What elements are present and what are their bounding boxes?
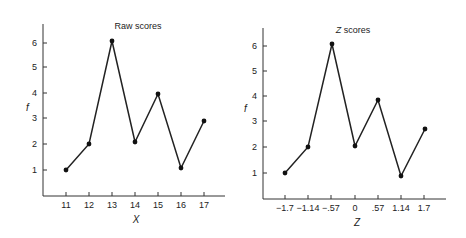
- y-tick-label: 6: [252, 41, 257, 51]
- y-tick-label: 5: [32, 62, 37, 72]
- x-tick-label: 14: [130, 200, 140, 210]
- x-tick-label: 16: [176, 200, 186, 210]
- y-ticks: 1 2 3 4 5 6: [32, 38, 47, 175]
- axes: [43, 24, 225, 196]
- frequency-polygon: [66, 41, 204, 170]
- x-tick-label: −1.14: [297, 203, 320, 213]
- x-axis-label: X: [132, 214, 140, 225]
- y-tick-label: 1: [252, 168, 257, 178]
- y-axis-label: f: [244, 103, 248, 114]
- x-ticks: −1.7 −1.14 −.57 0 .57 1.14 1.7: [276, 195, 430, 213]
- x-tick-label: .57: [372, 203, 385, 213]
- y-tick-label: 3: [252, 116, 257, 126]
- x-tick-label: 11: [61, 200, 70, 210]
- chart-title: Z scores: [335, 25, 371, 35]
- y-ticks: 1 2 3 4 5 6: [252, 41, 267, 178]
- y-tick-label: 4: [252, 91, 257, 101]
- figure: Raw scores 1 2 3 4 5 6 f 11: [0, 0, 466, 238]
- y-tick-label: 3: [32, 113, 37, 123]
- y-tick-label: 4: [32, 88, 37, 98]
- y-tick-label: 1: [32, 165, 37, 175]
- x-tick-label: −1.7: [276, 203, 294, 213]
- y-tick-label: 2: [32, 139, 37, 149]
- frequency-polygon: [285, 44, 425, 176]
- x-tick-label: −.57: [322, 203, 340, 213]
- chart-title: Raw scores: [114, 21, 162, 31]
- data-points: [64, 39, 207, 173]
- x-tick-label: 17: [199, 200, 209, 210]
- x-tick-label: 1.7: [418, 203, 431, 213]
- x-tick-label: 0: [352, 203, 357, 213]
- data-points: [283, 42, 428, 179]
- y-tick-label: 5: [252, 66, 257, 76]
- y-tick-label: 6: [32, 38, 37, 48]
- x-tick-label: 13: [107, 200, 117, 210]
- z-scores-chart: Z scores 1 2 3 4 5 6 f −1.7 −1.14: [244, 25, 446, 228]
- x-tick-label: 1.14: [392, 203, 410, 213]
- x-tick-label: 15: [153, 200, 163, 210]
- raw-scores-chart: Raw scores 1 2 3 4 5 6 f 11: [26, 21, 225, 225]
- y-axis-label: f: [26, 102, 30, 113]
- x-ticks: 11 12 13 14 15 16 17: [61, 192, 209, 210]
- x-axis-label: Z: [353, 217, 361, 228]
- y-tick-label: 2: [252, 142, 257, 152]
- axes: [263, 28, 446, 199]
- x-tick-label: 12: [84, 200, 94, 210]
